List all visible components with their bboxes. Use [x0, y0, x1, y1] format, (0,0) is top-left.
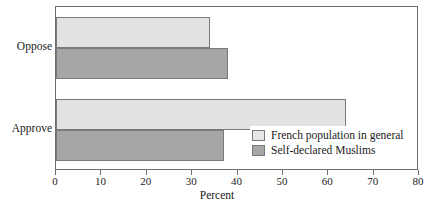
category-label-approve: Approve: [12, 123, 52, 135]
chart-legend: French population in general Self-declar…: [250, 126, 407, 160]
legend-item-self-declared-muslims: Self-declared Muslims: [252, 143, 404, 158]
x-tick-label-0: 0: [35, 176, 75, 187]
legend-swatch-icon-light: [252, 130, 265, 141]
x-tick-label-40: 40: [217, 176, 257, 187]
x-tick-label-50: 50: [262, 176, 302, 187]
x-axis-title: Percent: [0, 190, 434, 202]
x-tick-label-80: 80: [398, 176, 434, 187]
legend-label-self-declared-muslims: Self-declared Muslims: [271, 145, 375, 157]
bar-oppose-self-declared-muslims: [56, 48, 228, 79]
bar-approve-self-declared-muslims: [56, 130, 224, 161]
legend-swatch-icon-dark: [252, 145, 265, 156]
bar-oppose-french-population-in-general: [56, 17, 210, 48]
x-tick-label-20: 20: [126, 176, 166, 187]
x-tick-label-60: 60: [307, 176, 347, 187]
category-label-oppose: Oppose: [17, 41, 52, 53]
x-tick-label-10: 10: [80, 176, 120, 187]
x-tick-label-70: 70: [353, 176, 393, 187]
legend-label-french-population: French population in general: [271, 130, 404, 142]
legend-item-french-population: French population in general: [252, 128, 404, 143]
cropped-caption-remnant: [60, 0, 420, 2]
x-tick-label-30: 30: [171, 176, 211, 187]
bar-chart: Oppose Approve 01020304050607080 French …: [0, 0, 434, 208]
